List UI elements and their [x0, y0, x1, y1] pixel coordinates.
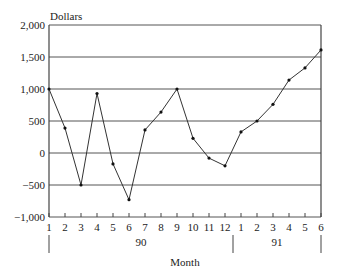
y-tick-label: 1,000	[20, 83, 45, 95]
data-point-marker	[79, 183, 82, 186]
x-tick-label: 5	[302, 221, 308, 233]
y-tick-label: 1,500	[20, 51, 45, 63]
x-tick-label: 6	[126, 221, 132, 233]
data-point-marker	[95, 92, 98, 95]
data-point-marker	[239, 130, 242, 133]
x-tick-label: 5	[110, 221, 116, 233]
x-tick-label: 7	[142, 221, 148, 233]
x-tick-label: 9	[174, 221, 180, 233]
x-axis-tick-labels: 123456789101112123456	[46, 213, 324, 233]
y-axis-tick-labels: 2,0001,5001,0005000−500−1,000	[14, 19, 45, 223]
year-label: 91	[272, 236, 283, 248]
data-point-marker	[63, 126, 66, 129]
y-tick-label: −1,000	[14, 211, 45, 223]
x-axis-label: Month	[170, 256, 200, 268]
x-tick-label: 10	[188, 221, 200, 233]
x-tick-label: 4	[94, 221, 100, 233]
x-tick-label: 1	[46, 221, 52, 233]
data-point-marker	[223, 164, 226, 167]
data-point-marker	[143, 128, 146, 131]
data-point-marker	[111, 162, 114, 165]
line-chart: 2,0001,5001,0005000−500−1,000 1234567891…	[0, 0, 340, 278]
data-point-marker	[271, 103, 274, 106]
data-point-marker	[127, 198, 130, 201]
y-tick-label: 2,000	[20, 19, 45, 31]
y-axis-label: Dollars	[50, 10, 82, 22]
x-tick-label: 12	[220, 221, 231, 233]
data-series-line	[47, 48, 322, 201]
y-tick-label: −500	[22, 179, 45, 191]
data-point-marker	[207, 157, 210, 160]
data-point-marker	[287, 78, 290, 81]
gridlines	[49, 25, 321, 217]
y-tick-label: 0	[40, 147, 46, 159]
data-point-marker	[303, 66, 306, 69]
x-tick-label: 11	[204, 221, 215, 233]
data-point-marker	[175, 87, 178, 90]
y-tick-label: 500	[29, 115, 46, 127]
data-point-marker	[159, 110, 162, 113]
data-point-marker	[319, 48, 322, 51]
series-line	[49, 50, 321, 200]
data-point-marker	[47, 87, 50, 90]
x-tick-label: 3	[270, 221, 276, 233]
x-tick-label: 6	[318, 221, 324, 233]
data-point-marker	[255, 119, 258, 122]
data-point-marker	[191, 137, 194, 140]
x-tick-label: 4	[286, 221, 292, 233]
x-tick-label: 2	[62, 221, 68, 233]
year-group-labels: 9091	[49, 235, 321, 253]
x-tick-label: 3	[78, 221, 84, 233]
year-label: 90	[136, 236, 148, 248]
x-tick-label: 1	[238, 221, 244, 233]
x-tick-label: 8	[158, 221, 164, 233]
x-tick-label: 2	[254, 221, 260, 233]
